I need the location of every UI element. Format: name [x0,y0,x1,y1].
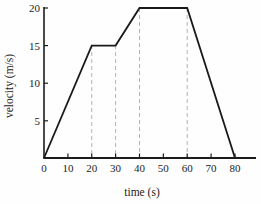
x-tick-label-70: 70 [206,162,218,174]
y-axis-title: velocity (m/s) [3,54,16,118]
x-tick-label-30: 30 [110,162,122,174]
guide-lines-group [92,8,187,158]
y-tick-label-15: 15 [29,40,41,52]
velocity-time-chart: 20 15 10 5 0 10 20 30 40 50 60 70 80 tim… [0,0,261,204]
x-tick-label-40: 40 [134,162,146,174]
x-tick-label-80: 80 [230,162,242,174]
x-tick-label-0: 0 [41,162,47,174]
x-tick-label-10: 10 [62,162,74,174]
x-axis-title: time (s) [124,186,160,199]
x-tick-label-60: 60 [182,162,194,174]
y-tick-label-20: 20 [29,2,41,14]
y-tick-label-10: 10 [29,77,41,89]
chart-plot-area: 20 15 10 5 0 10 20 30 40 50 60 70 80 tim… [0,0,261,204]
x-tick-label-20: 20 [86,162,98,174]
y-tick-label-5: 5 [35,115,41,127]
x-tick-label-50: 50 [158,162,170,174]
